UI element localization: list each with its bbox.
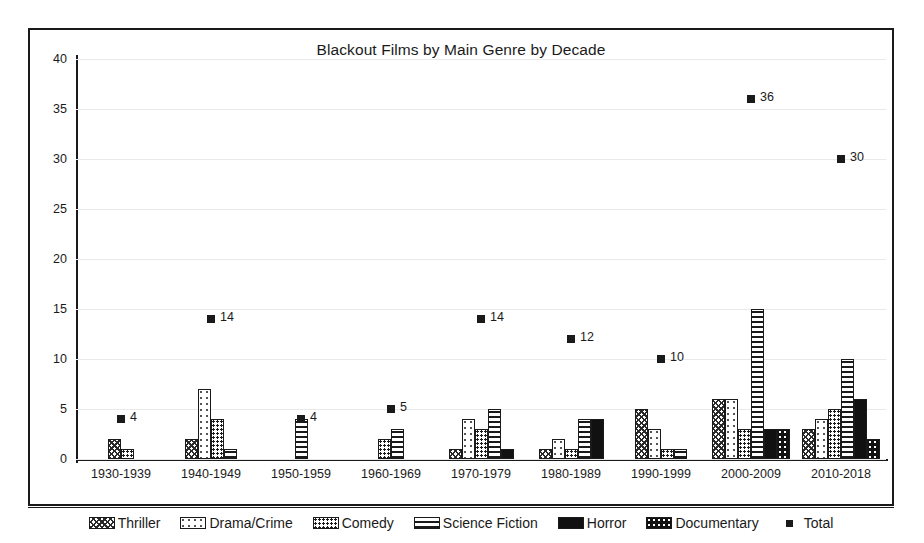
- bar-comedy[interactable]: [661, 449, 674, 459]
- y-axis-tick-label: 15: [53, 302, 67, 316]
- bar-horror[interactable]: [764, 429, 777, 459]
- bar-science-fiction[interactable]: [295, 419, 308, 459]
- legend-item-horror[interactable]: Horror: [558, 515, 627, 531]
- total-value-label: 14: [220, 310, 234, 324]
- bar-group: 362000-2009: [706, 59, 796, 459]
- y-axis-tick-label: 25: [53, 202, 67, 216]
- legend-swatch: [89, 517, 115, 529]
- total-value-label: 12: [580, 330, 594, 344]
- legend-label: Science Fiction: [442, 515, 538, 531]
- total-marker-square: [387, 405, 395, 413]
- bars: [256, 59, 346, 459]
- x-axis-tick-label: 2000-2009: [721, 467, 781, 481]
- bar-science-fiction[interactable]: [224, 449, 237, 459]
- x-axis-tick-label: 1940-1949: [181, 467, 241, 481]
- legend-swatch: [180, 517, 206, 529]
- x-axis-tick-label: 1930-1939: [91, 467, 151, 481]
- total-marker-square: [747, 95, 755, 103]
- bar-drama-crime[interactable]: [198, 389, 211, 459]
- bar-science-fiction[interactable]: [578, 419, 591, 459]
- x-axis-tick-label: 1990-1999: [631, 467, 691, 481]
- bar-comedy[interactable]: [738, 429, 751, 459]
- legend-item-science-fiction[interactable]: Science Fiction: [414, 515, 538, 531]
- bar-drama-crime[interactable]: [815, 419, 828, 459]
- bar-thriller[interactable]: [802, 429, 815, 459]
- bar-science-fiction[interactable]: [751, 309, 764, 459]
- bar-comedy[interactable]: [378, 439, 391, 459]
- bar-comedy[interactable]: [565, 449, 578, 459]
- legend-item-thriller[interactable]: Thriller: [89, 515, 161, 531]
- y-axis-tick-label: 40: [53, 52, 67, 66]
- legend-label: Horror: [586, 515, 627, 531]
- bar-thriller[interactable]: [108, 439, 121, 459]
- bars: [796, 59, 886, 459]
- bar-drama-crime[interactable]: [648, 429, 661, 459]
- bar-comedy[interactable]: [828, 409, 841, 459]
- legend-swatch: [313, 517, 339, 529]
- bar-group: 141940-1949: [166, 59, 256, 459]
- bar-science-fiction[interactable]: [674, 449, 687, 459]
- legend-item-drama-crime[interactable]: Drama/Crime: [180, 515, 292, 531]
- legend-label: Thriller: [117, 515, 161, 531]
- bar-horror[interactable]: [591, 419, 604, 459]
- bars: [76, 59, 166, 459]
- bar-drama-crime[interactable]: [462, 419, 475, 459]
- chart-panel: Blackout Films by Main Genre by Decade 0…: [28, 28, 894, 506]
- y-axis-tick-label: 5: [60, 402, 67, 416]
- bars: [706, 59, 796, 459]
- total-value-label: 36: [760, 90, 774, 104]
- legend-label: Total: [803, 515, 834, 531]
- y-axis-tick-label: 20: [53, 252, 67, 266]
- bar-thriller[interactable]: [635, 409, 648, 459]
- legend-swatch: [779, 517, 801, 529]
- total-marker-square: [297, 415, 305, 423]
- total-marker-square: [207, 315, 215, 323]
- bar-comedy[interactable]: [475, 429, 488, 459]
- legend-item-total[interactable]: Total: [779, 515, 834, 531]
- bar-horror[interactable]: [854, 399, 867, 459]
- legend-item-comedy[interactable]: Comedy: [313, 515, 394, 531]
- bar-thriller[interactable]: [712, 399, 725, 459]
- bar-thriller[interactable]: [449, 449, 462, 459]
- bar-thriller[interactable]: [539, 449, 552, 459]
- total-value-label: 10: [670, 350, 684, 364]
- legend-swatch: [646, 517, 672, 529]
- total-marker-square: [657, 355, 665, 363]
- x-axis-tick-label: 1980-1989: [541, 467, 601, 481]
- bar-comedy[interactable]: [211, 419, 224, 459]
- bar-horror[interactable]: [501, 449, 514, 459]
- y-axis-tick-label: 10: [53, 352, 67, 366]
- bars: [346, 59, 436, 459]
- bar-science-fiction[interactable]: [488, 409, 501, 459]
- bar-documentary[interactable]: [867, 439, 880, 459]
- bar-drama-crime[interactable]: [552, 439, 565, 459]
- bar-group: 41930-1939: [76, 59, 166, 459]
- legend-swatch: [558, 517, 584, 529]
- chart-legend: ThrillerDrama/CrimeComedyScience Fiction…: [28, 507, 894, 537]
- total-marker-square: [477, 315, 485, 323]
- bar-group: 302010-2018: [796, 59, 886, 459]
- legend-label: Drama/Crime: [208, 515, 292, 531]
- bar-science-fiction[interactable]: [391, 429, 404, 459]
- plot-area: 0510152025303540 41930-1939141940-194941…: [76, 59, 886, 459]
- legend-label: Comedy: [341, 515, 394, 531]
- bar-comedy[interactable]: [121, 449, 134, 459]
- legend-item-documentary[interactable]: Documentary: [646, 515, 758, 531]
- bar-thriller[interactable]: [185, 439, 198, 459]
- y-axis-tick-label: 30: [53, 152, 67, 166]
- total-marker-square: [117, 415, 125, 423]
- y-axis-tick-label: 35: [53, 102, 67, 116]
- bar-science-fiction[interactable]: [841, 359, 854, 459]
- x-axis-tick-label: 2010-2018: [811, 467, 871, 481]
- bar-group: 51960-1969: [346, 59, 436, 459]
- bar-group: 141970-1979: [436, 59, 526, 459]
- legend-label: Documentary: [674, 515, 758, 531]
- bars: [526, 59, 616, 459]
- gridline: [76, 459, 886, 460]
- total-value-label: 4: [310, 410, 317, 424]
- total-value-label: 14: [490, 310, 504, 324]
- bars: [166, 59, 256, 459]
- bar-drama-crime[interactable]: [725, 399, 738, 459]
- bar-documentary[interactable]: [777, 429, 790, 459]
- total-value-label: 5: [400, 400, 407, 414]
